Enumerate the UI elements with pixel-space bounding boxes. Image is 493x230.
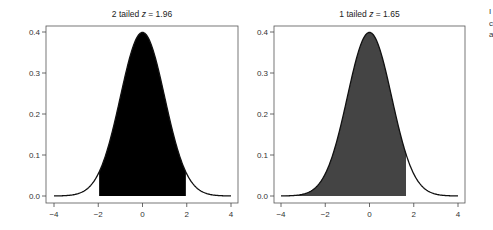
figure: −4−20240.00.10.20.30.42 tailed z = 1.96−… (0, 0, 493, 230)
x-tick-label: −4 (49, 210, 59, 219)
y-tick-label: 0.3 (29, 69, 41, 78)
x-tick-label: 0 (140, 210, 145, 219)
cropped-text-fragment: c (489, 19, 493, 28)
one-tailed-panel: −4−20240.00.10.20.30.41 tailed z = 1.65 (257, 9, 465, 219)
y-tick-label: 0.1 (29, 151, 41, 160)
y-tick-label: 0.4 (29, 28, 41, 37)
x-tick-label: 2 (185, 210, 190, 219)
two-tailed-panel: −4−20240.00.10.20.30.42 tailed z = 1.96 (29, 9, 238, 219)
y-tick-label: 0.4 (257, 28, 269, 37)
x-tick-label: 4 (456, 210, 461, 219)
cropped-text-fragment: a (489, 30, 493, 39)
y-tick-label: 0.3 (257, 69, 269, 78)
x-tick-label: 0 (367, 210, 372, 219)
y-tick-label: 0.0 (29, 192, 41, 201)
shaded-area (99, 32, 186, 196)
chart-title: 2 tailed z = 1.96 (112, 9, 173, 19)
x-tick-label: −4 (276, 210, 286, 219)
chart-title: 1 tailed z = 1.65 (339, 9, 400, 19)
x-tick-label: 4 (229, 210, 234, 219)
y-tick-label: 0.2 (257, 110, 269, 119)
x-tick-label: −2 (321, 210, 331, 219)
y-tick-label: 0.2 (29, 110, 41, 119)
y-tick-label: 0.0 (257, 192, 269, 201)
x-tick-label: 2 (412, 210, 417, 219)
cropped-text-fragment: I (489, 7, 491, 16)
y-tick-label: 0.1 (257, 151, 269, 160)
x-tick-label: −2 (94, 210, 104, 219)
